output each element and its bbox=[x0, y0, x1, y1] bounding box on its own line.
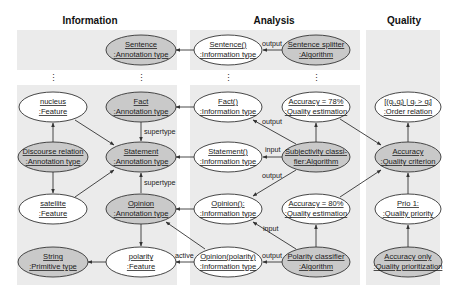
node-subjectivity-classifier-algorithm: Subjectivity classi- fier:Algorithm bbox=[282, 142, 350, 172]
edge-label-input: input bbox=[265, 145, 281, 154]
node-fact-information-type: Fact() :Information type bbox=[194, 92, 262, 122]
edge-label-active: active bbox=[175, 251, 194, 260]
svg-text:fier:Algorithm: fier:Algorithm bbox=[294, 157, 339, 166]
svg-text::Annotation type: :Annotation type bbox=[114, 209, 169, 218]
svg-text::Algorithm: :Algorithm bbox=[299, 50, 333, 59]
edge-label-supertype: supertype bbox=[144, 127, 176, 136]
node-nucleus-feature: nucleus :Feature bbox=[19, 92, 87, 122]
diagram-canvas: Information Analysis Quality ⋮ ⋮ ⋮ ⋮ bbox=[0, 0, 454, 297]
svg-text:String: String bbox=[43, 252, 63, 261]
node-order-relation: [(qᵢ,qⱼ) | qᵢ > qⱼ] :Order relation bbox=[375, 92, 441, 122]
svg-text::Primitive type: :Primitive type bbox=[29, 262, 77, 271]
svg-text:Opinion(polarity): Opinion(polarity) bbox=[200, 252, 256, 261]
edge-label-output: output bbox=[262, 171, 282, 180]
node-string-primitive-type: String :Primitive type bbox=[18, 247, 88, 277]
node-statement-annotation-type: Statement :Annotation type bbox=[106, 142, 176, 172]
ellipsis-icon: ⋮ bbox=[224, 73, 233, 83]
edge-label-output: output bbox=[262, 117, 282, 126]
svg-text:Sentence: Sentence bbox=[125, 40, 157, 49]
node-sentence-annotation-type: Sentence :Annotation type bbox=[106, 35, 176, 65]
node-opinion-annotation-type: Opinion :Annotation type bbox=[106, 194, 176, 224]
svg-text::Information type: :Information type bbox=[200, 50, 257, 59]
svg-text::Feature: :Feature bbox=[127, 262, 155, 271]
ellipsis-icon: ⋮ bbox=[49, 73, 58, 83]
ellipsis-markers: ⋮ ⋮ ⋮ ⋮ bbox=[49, 73, 321, 83]
ellipsis-icon: ⋮ bbox=[137, 73, 146, 83]
svg-text:Statement(): Statement() bbox=[208, 147, 248, 156]
svg-text:Accuracy = 78%: Accuracy = 78% bbox=[288, 97, 343, 106]
svg-text::Annotation type: :Annotation type bbox=[26, 157, 81, 166]
node-fact-annotation-type: Fact :Annotation type bbox=[106, 92, 176, 122]
column-title-analysis: Analysis bbox=[253, 15, 295, 26]
svg-text:Opinion: Opinion bbox=[128, 199, 154, 208]
edge-label-input: input bbox=[263, 224, 279, 233]
svg-text::Information type: :Information type bbox=[200, 209, 257, 218]
svg-text:Accuracy only: Accuracy only bbox=[384, 252, 431, 261]
node-opinion-information-type: Opinion(): :Information type bbox=[194, 194, 262, 224]
svg-text::Quality criterion: :Quality criterion bbox=[381, 157, 436, 166]
edge-label-output: output bbox=[262, 251, 282, 260]
edge-label-output: output bbox=[262, 39, 282, 48]
svg-text:Discourse relation: Discourse relation bbox=[23, 147, 84, 156]
svg-text::Quality estimation: :Quality estimation bbox=[285, 209, 347, 218]
svg-text:Polarity classifier: Polarity classifier bbox=[288, 252, 345, 261]
svg-text::Quality prioritization: :Quality prioritization bbox=[374, 262, 443, 271]
svg-text:satellite: satellite bbox=[40, 199, 66, 208]
svg-text:Sentence splitter: Sentence splitter bbox=[288, 40, 345, 49]
node-accuracy-only-quality-prioritization: Accuracy only :Quality prioritization bbox=[374, 247, 443, 277]
svg-text:Subjectivity classi-: Subjectivity classi- bbox=[285, 147, 348, 156]
svg-text:[(qᵢ,qⱼ) | qᵢ > qⱼ]: [(qᵢ,qⱼ) | qᵢ > qⱼ] bbox=[384, 97, 432, 106]
svg-text:Statement: Statement bbox=[124, 147, 160, 156]
svg-text::Annotation type: :Annotation type bbox=[114, 157, 169, 166]
svg-text:Fact(): Fact() bbox=[218, 97, 238, 106]
node-statement-information-type: Statement() :Information type bbox=[194, 142, 262, 172]
edge-label-supertype: supertype bbox=[144, 178, 176, 187]
node-prio1-quality-priority: Prio 1: :Quality priority bbox=[375, 194, 441, 224]
node-polarity-feature: polarity :Feature bbox=[106, 247, 176, 277]
svg-text::Annotation type: :Annotation type bbox=[114, 107, 169, 116]
svg-text::Information type: :Information type bbox=[200, 262, 257, 271]
node-discourse-relation-annotation-type: Discourse relation :Annotation type bbox=[18, 142, 88, 172]
svg-text:polarity: polarity bbox=[129, 252, 154, 261]
svg-text::Quality priority: :Quality priority bbox=[383, 209, 434, 218]
svg-text::Order relation: :Order relation bbox=[384, 107, 433, 116]
svg-text:Fact: Fact bbox=[134, 97, 150, 106]
node-polarity-classifier-algorithm: Polarity classifier :Algorithm bbox=[282, 247, 350, 277]
node-sentence-information-type: Sentence() :Information type bbox=[194, 35, 262, 65]
svg-text:nucleus: nucleus bbox=[40, 97, 66, 106]
node-accuracy-quality-criterion: Accuracy :Quality criterion bbox=[375, 142, 441, 172]
svg-text::Information type: :Information type bbox=[200, 107, 257, 116]
ellipsis-icon: ⋮ bbox=[312, 73, 321, 83]
svg-text::Feature: :Feature bbox=[39, 209, 67, 218]
svg-text::Information type: :Information type bbox=[200, 157, 257, 166]
node-sentence-splitter-algorithm: Sentence splitter :Algorithm bbox=[282, 35, 350, 65]
svg-text:Accuracy: Accuracy bbox=[392, 147, 423, 156]
node-accuracy-80-quality-estimation: Accuracy = 80% :Quality estimation bbox=[282, 194, 350, 224]
svg-text:Opinion():: Opinion(): bbox=[211, 199, 244, 208]
svg-text::Feature: :Feature bbox=[39, 107, 67, 116]
svg-text::Algorithm: :Algorithm bbox=[299, 262, 333, 271]
column-title-quality: Quality bbox=[387, 15, 421, 26]
column-title-information: Information bbox=[63, 15, 118, 26]
svg-text:Sentence(): Sentence() bbox=[209, 40, 247, 49]
svg-text:Accuracy = 80%: Accuracy = 80% bbox=[288, 199, 343, 208]
node-satellite-feature: satellite :Feature bbox=[19, 194, 87, 224]
node-accuracy-78-quality-estimation: Accuracy = 78% :Quality estimation bbox=[282, 92, 350, 122]
svg-text::Quality estimation: :Quality estimation bbox=[285, 107, 347, 116]
svg-text:Prio 1:: Prio 1: bbox=[397, 199, 419, 208]
svg-text::Annotation type: :Annotation type bbox=[114, 50, 169, 59]
node-opinion-polarity-information-type: Opinion(polarity) :Information type bbox=[194, 247, 262, 277]
